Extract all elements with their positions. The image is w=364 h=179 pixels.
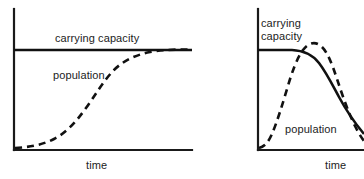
- population-label: population: [285, 123, 337, 136]
- population-curve: [15, 50, 192, 149]
- time-axis-label: time: [86, 159, 107, 172]
- population-label: population: [53, 69, 105, 82]
- carrying-capacity-figure: carrying capacity population time carryi…: [0, 0, 364, 179]
- logistic-growth-plot: [0, 0, 200, 179]
- carrying-capacity-label: carrying capacity: [261, 17, 302, 42]
- carrying-capacity-curve: [258, 50, 364, 134]
- overshoot-decline-panel: carrying capacity population time: [200, 0, 364, 179]
- carrying-capacity-label-line1: carrying: [261, 17, 301, 29]
- carrying-capacity-label-line2: capacity: [261, 30, 302, 42]
- time-axis-label: time: [325, 159, 346, 172]
- logistic-growth-panel: carrying capacity population time: [0, 0, 200, 179]
- carrying-capacity-label: carrying capacity: [55, 32, 139, 45]
